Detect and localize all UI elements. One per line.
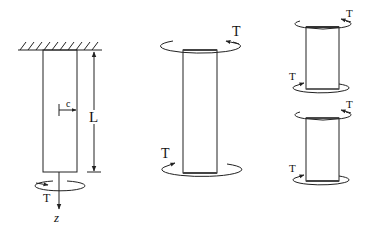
top-torque-label: T	[346, 7, 353, 19]
segment	[306, 118, 339, 181]
bottom-torque: T	[161, 146, 242, 176]
bottom-torque-label: T	[289, 70, 296, 82]
radius-label: c	[66, 98, 71, 109]
segment	[306, 27, 339, 89]
applied-torque: T z	[35, 172, 85, 225]
axis-label: z	[53, 210, 59, 225]
bottom-torque-label: T	[289, 162, 296, 174]
bottom-torque-label: T	[161, 146, 170, 161]
fixed-support-hatch	[18, 42, 102, 50]
shaft	[183, 50, 217, 173]
torsion-diagram: L c T z T T	[0, 0, 369, 227]
panel-free-body-shaft: T T	[161, 24, 242, 176]
shaft	[43, 50, 77, 172]
panel-segment-lower: T T	[289, 98, 353, 185]
length-label: L	[89, 109, 98, 125]
top-torque: T	[161, 24, 241, 53]
panel-segment-upper: T T	[289, 7, 353, 93]
radius-marker: c	[59, 98, 76, 116]
length-dimension: L	[87, 52, 101, 172]
panel-fixed-shaft: L c T z	[18, 42, 102, 225]
top-torque-label: T	[232, 24, 241, 39]
top-torque-label: T	[346, 98, 353, 110]
torque-label: T	[43, 191, 51, 205]
